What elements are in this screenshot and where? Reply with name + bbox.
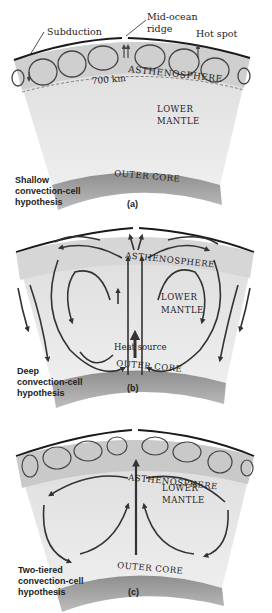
caption-line-3: hypothesis: [18, 587, 66, 597]
caption-line-3: hypothesis: [17, 388, 65, 398]
ridge-callout-line: [126, 20, 146, 36]
caption-line-1: Deep: [17, 366, 40, 376]
caption-line-1: Two-tiered: [18, 565, 63, 575]
lower-mantle-label-2: MANTLE: [162, 495, 205, 505]
hot-spot-label: Hot spot: [196, 28, 238, 39]
caption-line-1: Shallow: [15, 175, 50, 185]
lower-mantle-label-2: MANTLE: [157, 116, 200, 126]
panel-label: (c): [128, 587, 139, 597]
panel-a: Subduction Mid-ocean ridge Hot spot ASTH…: [12, 11, 250, 210]
heat-source-label: Heat source: [114, 342, 166, 352]
lower-mantle-label-2: MANTLE: [161, 305, 204, 315]
panel-b: ASTHENOSPHERE LOWER MANTLE Heat source O…: [16, 228, 254, 408]
panel-label: (b): [127, 383, 139, 393]
caption-line-3: hypothesis: [15, 197, 63, 207]
caption-line-2: convection-cell: [18, 576, 84, 586]
caption-line-2: convection-cell: [15, 186, 81, 196]
mid-ocean-ridge-label: Mid-ocean: [147, 11, 198, 22]
lower-mantle-label: LOWER: [157, 104, 194, 114]
caption-line-2: convection-cell: [17, 377, 83, 387]
lower-mantle-label: LOWER: [162, 483, 199, 493]
mid-ocean-ridge-label-2: ridge: [147, 23, 173, 34]
lower-mantle-label: LOWER: [161, 292, 198, 302]
panel-c: ASTHENOSPHERE LOWER MANTLE OUTER CORE Tw…: [16, 430, 254, 612]
mantle-convection-diagram: Subduction Mid-ocean ridge Hot spot ASTH…: [0, 0, 272, 613]
panel-label: (a): [127, 199, 138, 209]
subduction-label: Subduction: [47, 26, 102, 37]
